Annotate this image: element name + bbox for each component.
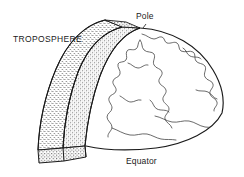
diagram-canvas <box>0 0 244 177</box>
troposphere-diagram: TROPOSPHERE Pole Equator <box>0 0 244 177</box>
pole-label: Pole <box>136 12 154 21</box>
equator-label: Equator <box>126 157 157 166</box>
pole-leader-line <box>143 24 146 28</box>
troposphere-label: TROPOSPHERE <box>13 35 82 44</box>
